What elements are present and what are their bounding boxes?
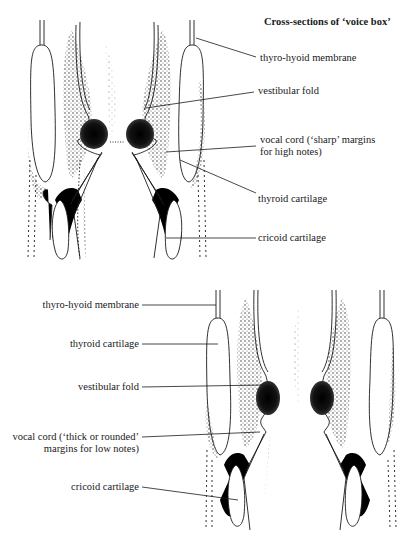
top-label-thyro-hyoid-membrane: thyro-hyoid membrane [260,52,357,64]
diagram-title: Cross-sections of ‘voice box’ [264,16,391,27]
voice-box-illustration [0,0,404,549]
top-vocal-cord-line2: for high notes) [260,146,375,158]
bottom-label-vestibular-fold: vestibular fold [78,381,139,393]
top-cross-section [28,20,206,260]
top-label-cricoid-cartilage: cricoid cartilage [258,232,326,244]
bottom-vocal-cord-line1: vocal cord (‘thick or rounded’ [12,431,139,443]
bottom-cross-section [206,290,396,530]
top-vocal-cord-line1: vocal cord (‘sharp’ margins [260,134,375,146]
bottom-vocal-cord-line2: margins for low notes) [12,443,139,455]
bottom-label-cricoid-cartilage: cricoid cartilage [71,481,139,493]
top-label-thyroid-cartilage: thyroid cartilage [258,193,327,205]
bottom-label-thyro-hyoid-membrane: thyro-hyoid membrane [42,299,139,311]
bottom-label-vocal-cord: vocal cord (‘thick or rounded’ margins f… [12,431,139,455]
top-label-vocal-cord: vocal cord (‘sharp’ margins for high not… [260,134,375,158]
bottom-label-thyroid-cartilage: thyroid cartilage [70,338,139,350]
top-label-vestibular-fold: vestibular fold [258,85,319,97]
